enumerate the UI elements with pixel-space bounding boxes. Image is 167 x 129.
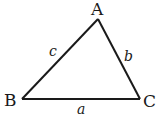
- vertex-label-b: B: [4, 90, 17, 110]
- vertex-label-c: C: [143, 91, 156, 111]
- side-b-line: [98, 19, 140, 99]
- side-label-a: a: [77, 101, 85, 117]
- side-label-b: b: [124, 48, 133, 64]
- triangle-diagram: A B C a b c: [0, 0, 167, 129]
- side-label-c: c: [49, 43, 57, 59]
- vertex-label-a: A: [90, 0, 104, 19]
- side-c-line: [22, 19, 98, 99]
